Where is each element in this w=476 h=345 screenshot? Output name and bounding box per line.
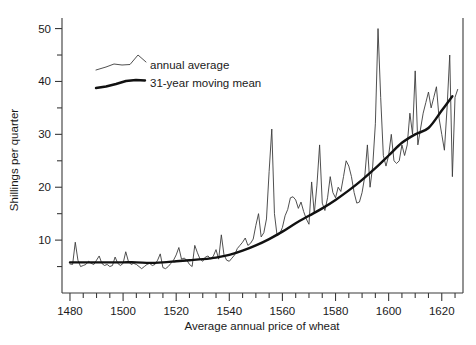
- legend-swatch-moving-mean: [96, 80, 145, 88]
- x-tick-label: 1520: [163, 305, 189, 317]
- legend-swatch-annual-average: [96, 55, 146, 70]
- x-tick-label: 1500: [110, 305, 136, 317]
- x-axis-tick-labels: 14801500152015401560158016001620: [57, 305, 454, 317]
- chart-legend: annual average 31-year moving mean: [96, 55, 261, 89]
- x-tick-label: 1620: [429, 305, 455, 317]
- y-axis-ticks: [55, 29, 62, 267]
- series-31-year-moving-mean: [70, 96, 452, 263]
- y-tick-label: 30: [38, 128, 51, 140]
- y-axis-tick-labels: 1020304050: [38, 23, 51, 247]
- x-axis-ticks: [70, 293, 455, 301]
- x-tick-label: 1560: [270, 305, 296, 317]
- x-tick-label: 1480: [57, 305, 83, 317]
- y-axis-title: Shillings per quarter: [8, 109, 20, 211]
- axes: [62, 18, 463, 293]
- x-tick-label: 1540: [217, 305, 243, 317]
- wheat-price-line-chart: 1020304050 14801500152015401560158016001…: [0, 0, 476, 345]
- x-tick-label: 1580: [323, 305, 349, 317]
- y-tick-label: 10: [38, 234, 51, 246]
- y-tick-label: 20: [38, 181, 51, 193]
- chart-figure: 1020304050 14801500152015401560158016001…: [0, 0, 476, 345]
- x-axis-title: Average annual price of wheat: [184, 320, 340, 332]
- y-tick-label: 40: [38, 75, 51, 87]
- legend-label-annual-average: annual average: [150, 59, 229, 71]
- y-tick-label: 50: [38, 23, 51, 35]
- x-tick-label: 1600: [376, 305, 402, 317]
- legend-label-moving-mean: 31-year moving mean: [150, 77, 261, 89]
